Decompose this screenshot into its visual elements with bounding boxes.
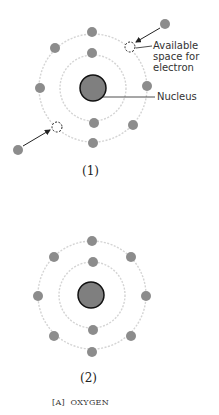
- electron-icon: [126, 331, 136, 341]
- nucleus: [78, 282, 104, 308]
- electron-icon: [87, 347, 97, 357]
- electron-icon: [128, 120, 138, 130]
- electron-icon: [87, 27, 97, 37]
- vacancy-icon: [125, 42, 135, 52]
- electron-icon: [49, 331, 59, 341]
- electron-icon: [87, 48, 97, 58]
- figure-label: [A]: [52, 398, 65, 407]
- electron-icon: [50, 43, 60, 53]
- figure-title: OXYGEN: [71, 398, 109, 407]
- electron-icon: [35, 83, 45, 93]
- electron-icon: [141, 291, 151, 301]
- electron-icon: [89, 118, 99, 128]
- electron-icon: [49, 252, 59, 262]
- vacancy-icon: [52, 122, 62, 132]
- incoming-electron-icon: [13, 145, 23, 155]
- electron-icon: [87, 236, 97, 246]
- incoming-electron-icon: [160, 19, 170, 29]
- caption-2: (2): [80, 371, 97, 385]
- electron-icon: [142, 81, 152, 91]
- leader-line: [136, 46, 152, 48]
- figure-caption: [A] OXYGEN: [52, 398, 109, 407]
- electron-icon: [126, 252, 136, 262]
- arrow-icon: [23, 130, 50, 146]
- label-line: Available: [153, 40, 213, 51]
- available-space-label: Available space for electron: [153, 40, 213, 73]
- electron-icon: [88, 138, 98, 148]
- caption-1: (1): [82, 164, 99, 178]
- electron-icon: [88, 325, 98, 335]
- electron-icon: [88, 257, 98, 267]
- diagram-2-atom: [33, 236, 151, 357]
- label-line: space for: [153, 51, 213, 62]
- electron-icon: [33, 291, 43, 301]
- nucleus-label: Nucleus: [157, 91, 197, 102]
- diagram-1-atom: [13, 19, 170, 155]
- label-line: electron: [153, 62, 213, 73]
